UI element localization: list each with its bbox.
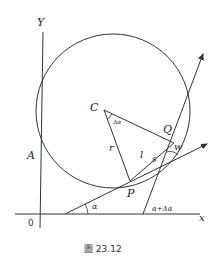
- angle-alpha-plus-delta-label: α+Δα: [152, 205, 173, 213]
- tangent-at-q: [143, 54, 203, 214]
- angle-w-label: w: [174, 141, 183, 152]
- arc-label: s: [152, 154, 157, 164]
- circle: [36, 34, 190, 188]
- figure-23-12: Y x 0 A C Q P r l s w Δα α α+Δα 圖 23.12: [0, 0, 221, 264]
- tangent-at-p: [65, 144, 207, 214]
- y-axis-label: Y: [37, 16, 46, 29]
- origin-label: 0: [28, 218, 34, 228]
- point-c-label: C: [90, 101, 99, 114]
- point-q-label: Q: [163, 123, 172, 136]
- angle-alpha-arc: [85, 204, 88, 214]
- angle-delta-alpha-label: Δα: [112, 118, 121, 125]
- y-axis: [40, 32, 43, 228]
- radius-label: r: [109, 142, 115, 153]
- figure-caption: 圖 23.12: [84, 244, 122, 254]
- point-a-label: A: [26, 149, 35, 162]
- point-p-label: P: [126, 187, 135, 200]
- angle-delta-alpha-arc: [107, 114, 112, 119]
- x-axis-label: x: [199, 212, 205, 223]
- angle-alpha-label: α: [92, 202, 98, 211]
- chord-label: l: [140, 149, 143, 160]
